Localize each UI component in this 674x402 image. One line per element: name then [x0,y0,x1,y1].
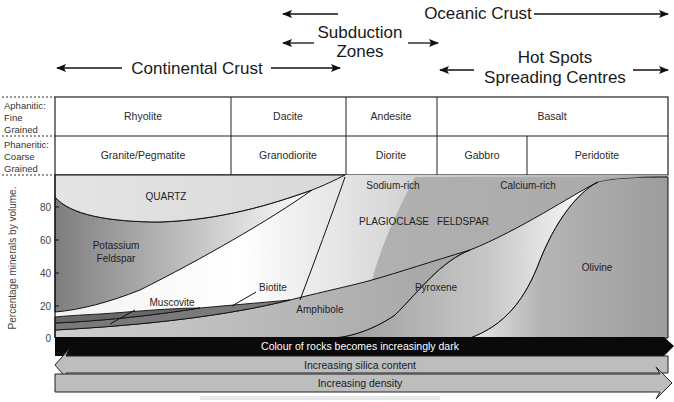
crust-headers: Oceanic Crust Subduction Zones Continent… [57,4,668,87]
label-calcium-rich: Calcium-rich [500,180,556,191]
label-amphibole: Amphibole [296,304,344,315]
rock-texture-table: Aphanitic: Fine Grained Phaneritic: Coar… [2,97,668,175]
oceanic-crust-label: Oceanic Crust [424,4,532,23]
grained-label: Grained [4,124,38,135]
aphanitic-label: Aphanitic: [4,100,46,111]
cell-granite-pegmatite: Granite/Pegmatite [101,149,186,161]
hotspots-label-line2: Spreading Centres [484,68,626,87]
cell-rhyolite: Rhyolite [124,110,162,122]
subduction-label-line1: Subduction [317,23,402,42]
label-muscovite: Muscovite [149,297,194,308]
tick-80: 80 [40,202,52,213]
y-axis-label: Percentage minerals by volume. [7,187,18,330]
igneous-rock-classification-diagram: Oceanic Crust Subduction Zones Continent… [0,0,674,402]
cell-gabbro: Gabbro [464,149,499,161]
silica-content-label: Increasing silica content [304,359,416,371]
tick-40: 40 [40,268,52,279]
continental-crust-label: Continental Crust [131,59,263,78]
tick-60: 60 [40,235,52,246]
cell-diorite: Diorite [376,149,407,161]
figure-caption-cutoff [200,396,440,400]
phaneritic-label: Phaneritic: [4,139,49,150]
cell-peridotite: Peridotite [575,149,620,161]
colour-darkness-label: Colour of rocks becomes increasingly dar… [261,340,460,352]
tick-0: 0 [45,333,51,344]
grained-label-2: Grained [4,163,38,174]
tick-20: 20 [40,301,52,312]
cell-dacite: Dacite [273,110,303,122]
cell-basalt: Basalt [537,110,566,122]
label-quartz: QUARTZ [146,191,187,202]
label-feldspar: Feldspar [97,253,137,264]
property-arrows: Colour of rocks becomes increasingly dar… [55,337,674,399]
label-biotite: Biotite [259,282,287,293]
mineral-composition-chart: 80 60 40 20 0 Percentage minerals by vol… [7,175,668,344]
coarse-label: Coarse [4,151,35,162]
subduction-label-line2: Zones [336,42,383,61]
label-plagioclase: PLAGIOCLASE [359,216,429,227]
label-sodium-rich: Sodium-rich [366,180,419,191]
cell-granodiorite: Granodiorite [259,149,317,161]
fine-label: Fine [4,112,22,123]
cell-andesite: Andesite [371,110,412,122]
label-potassium: Potassium [93,240,140,251]
label-olivine: Olivine [582,262,613,273]
density-label: Increasing density [318,377,403,389]
label-feldspar-plag: FELDSPAR [437,216,489,227]
label-pyroxene: Pyroxene [415,282,458,293]
hotspots-label-line1: Hot Spots [518,48,593,67]
